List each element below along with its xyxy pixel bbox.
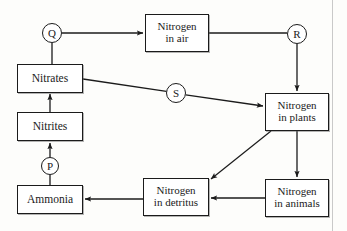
node-nitrogen-in-air: Nitrogen in air [145,14,209,52]
edge-nitrates-to-s [83,79,166,91]
node-ammonia-label: Ammonia [27,193,73,205]
page-edge-rule [332,0,333,231]
node-process-s-label: S [173,87,179,99]
node-ammonia: Ammonia [17,185,83,214]
nitrogen-cycle-diagram: Nitrates Nitrites Ammonia Nitrogen in ai… [0,0,347,231]
node-nitrogen-in-air-line2: in air [166,33,189,45]
node-process-r-label: R [293,28,300,40]
node-process-s: S [166,83,186,103]
node-nitrites: Nitrites [17,112,83,141]
node-process-p: P [41,157,59,175]
node-nitrogen-in-animals-line2: in animals [274,198,320,210]
node-process-r: R [287,24,307,44]
node-nitrogen-in-plants-line2: in plants [278,112,316,124]
node-nitrates-label: Nitrates [32,72,68,84]
node-nitrates: Nitrates [17,64,83,93]
edge-s-to-nitrogen-in-plants [186,95,263,106]
node-nitrogen-in-plants: Nitrogen in plants [265,93,329,131]
node-process-p-label: P [47,160,53,172]
node-nitrogen-in-detritus: Nitrogen in detritus [143,178,209,216]
edge-nitrogen-in-plants-to-nitrogen-in-detritus [211,131,271,179]
node-nitrites-label: Nitrites [33,120,68,132]
node-process-q-label: Q [48,27,56,39]
node-nitrogen-in-animals: Nitrogen in animals [265,179,329,217]
node-nitrogen-in-detritus-line2: in detritus [154,197,198,209]
node-process-q: Q [42,23,62,43]
